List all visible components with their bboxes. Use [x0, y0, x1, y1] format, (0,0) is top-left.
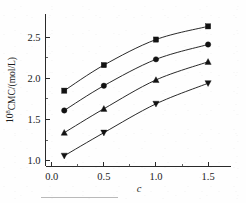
chart-canvas: 0.00.51.01.5 1.01.52.02.5 c 108CMC/(mol/… — [0, 0, 246, 203]
series-square — [62, 24, 211, 93]
x-tick-label: 0.5 — [97, 171, 110, 182]
y-axis-title-rest: CMC/(mol/L) — [7, 57, 18, 110]
series-triangle-down — [61, 81, 211, 159]
y-axis-title-group: 108CMC/(mol/L) — [4, 57, 19, 123]
data-point — [153, 37, 158, 42]
data-point — [153, 57, 158, 62]
data-point — [205, 59, 211, 65]
axes-spines — [46, 14, 232, 167]
caption-rule — [41, 197, 118, 198]
y-tick-label: 2.5 — [27, 32, 40, 43]
y-tick-label: 1.0 — [27, 155, 40, 166]
y-tick-label: 2.0 — [27, 73, 40, 84]
data-point — [153, 77, 159, 83]
data-point — [101, 106, 107, 112]
data-point — [62, 108, 67, 113]
data-point — [205, 24, 210, 29]
data-point — [205, 42, 210, 47]
data-point — [153, 101, 159, 107]
series-line — [64, 26, 208, 90]
y-tick-label: 1.5 — [27, 114, 40, 125]
x-tick-label: 1.0 — [149, 171, 162, 182]
data-point — [205, 81, 211, 87]
x-axis-tick-labels: 0.00.51.01.5 — [45, 171, 214, 182]
series-triangle-up — [61, 59, 211, 136]
y-axis-tick-labels: 1.01.52.02.5 — [27, 32, 40, 167]
data-point — [61, 153, 67, 159]
x-axis-title: c — [137, 183, 142, 194]
x-tick-label: 1.5 — [202, 171, 215, 182]
y-axis-title-base: 10 — [5, 113, 15, 123]
data-series-layer — [61, 24, 211, 159]
y-axis-title: 108CMC/(mol/L) — [4, 57, 19, 123]
data-point — [101, 130, 107, 136]
series-line — [64, 62, 208, 133]
x-tick-label: 0.0 — [45, 171, 58, 182]
data-point — [62, 88, 67, 93]
data-point — [61, 130, 67, 136]
data-point — [101, 83, 106, 88]
series-line — [64, 45, 208, 111]
figure-root: 0.00.51.01.5 1.01.52.02.5 c 108CMC/(mol/… — [0, 0, 246, 203]
data-point — [101, 63, 106, 68]
